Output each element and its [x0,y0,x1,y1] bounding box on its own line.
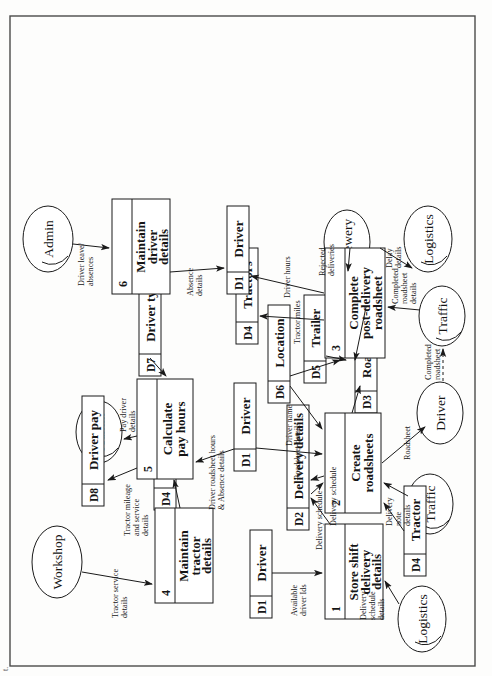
flow-arrow [388,307,420,310]
data-store-d1-driver-b: D1 Driver [234,383,256,471]
data-store-code: D4 [242,326,254,340]
flow-label-line: Driver roadsheet hours [208,435,217,510]
process-label-line: details [156,229,171,265]
flow-label-tractor-service-details: Tractor service details [111,569,129,618]
process-5-calculate-pay-hours: 5 Calculate pay hours [137,379,193,479]
flow-label-line: & Absence details [217,450,226,510]
process-number: 6 [116,281,130,287]
flow-label-line: Available [290,584,299,616]
process-label-line: pay hours [173,401,188,456]
flow-label-absence-details: Absence details [186,267,204,296]
page-margin-caption: al t. [0,665,10,671]
flow-label-pay-driver-details: Pay driver details [119,398,137,432]
flow-label-line: Completed [424,344,433,380]
data-store-code: D2 [293,512,305,526]
process-number: 3 [329,345,343,351]
entity-logistics-2: Logistics [404,206,452,272]
data-store-label: Driver [231,220,246,257]
data-store-code: D4 [410,558,422,572]
entity-admin-2: Admin [23,206,73,272]
flow-label-tractor-miles: Tractor miles [293,300,302,344]
process-label-line: details [369,554,384,590]
flow-label-line: and service [132,499,141,536]
flow-label-driver-roadsheet-hours-absence-details: Driver roadsheet hours & Absence details [208,435,226,510]
entity-label: Logistics [421,214,436,264]
data-store-label: Trailer [308,308,323,347]
flow-label-line: schedule [368,591,377,620]
entity-label: Traffic [435,298,450,335]
data-store-d4-tractor-a: D4 Tractor [404,486,426,576]
flow-label-line: absences [86,257,95,286]
data-store-d6-location: D6 Location [268,305,290,403]
flow-arrow [385,581,399,604]
process-number: 5 [141,466,155,472]
diagram-rotation-wrapper: Logistics Traffic Driver Traffic Logisti… [0,0,492,676]
flow-label-completed-roadsheet: Completed roadsheet [424,344,442,380]
flow-label-line: Tractor service [111,569,120,618]
data-store-code: D1 [256,600,268,614]
entity-workshop: Workshop [32,526,82,598]
flow-label-line: details [128,411,137,432]
flow-label-tractor-mileage-and-service-details: Tractor mileage and service details [123,484,150,536]
entity-label: Logistics [415,594,430,644]
flow-label-line: Pay driver [119,398,128,432]
data-store-label: Driver pay [86,409,101,470]
flow-arrow [311,476,324,480]
flow-label-line: details [394,247,403,268]
entity-label: Driver [433,395,448,431]
data-store-code: D3 [361,395,373,409]
flow-label-line: Rejected [318,247,327,276]
flow-arrow [170,268,224,272]
data-store-label: Driver [238,397,253,434]
caption-line-2: t. [1,665,10,671]
entity-driver-1: Driver [417,382,463,444]
flow-label-available-driver-ids: Available driver Ids [290,584,308,616]
flow-label-line: Tractor mileage [123,484,132,536]
flow-label-delivery-schedule: Delivery schedule [329,466,338,526]
flow-arrow [124,436,137,439]
flow-label-roadsheet: Roadsheet [403,425,412,460]
data-store-d1-driver-a: D1 Driver [250,530,272,618]
flow-label-line: details [409,283,418,304]
flow-label-line: details [377,599,386,620]
flow-arrow [108,468,137,480]
flow-label-line: roadsheet [400,272,409,304]
flow-label-line: details [120,597,129,618]
data-store-code: D5 [310,365,322,379]
data-store-d8-driver-pay: D8 Driver pay [82,396,104,506]
process-6-maintain-driver-details: 6 Maintain driver details [112,199,171,294]
data-store-code: D4 [160,492,172,506]
flow-label-line: Driver leave/ [77,242,86,286]
process-number: 1 [329,606,343,612]
entity-label: Workshop [50,534,65,589]
data-store-d1-driver-c: D1 Driver [227,206,249,294]
flow-label-line: Delay [385,248,394,268]
data-store-code: D1 [240,453,252,467]
flow-label-line: details [141,515,150,536]
flow-label-line: driver Ids [299,584,308,616]
flow-label-rejected-deliveries: Rejected deliveries [318,244,336,276]
data-store-d5-trailer: D5 Trailer [304,295,326,383]
entity-label: Admin [41,220,56,258]
flow-label-driver-leave-absences: Driver leave/ absences [77,242,95,286]
data-store-label: Location [272,318,287,368]
data-store-code: D8 [88,488,100,502]
flow-label-line: Delivery [359,590,368,620]
scanned-page: Logistics Traffic Driver Traffic Logisti… [0,0,492,676]
flow-label-driver-name: Driver name [285,404,294,446]
entity-traffic-2: Traffic [419,286,465,346]
process-4-maintain-tractor-details: 4 Maintain tractor details [155,508,214,603]
flow-label-line: roadsheet [433,348,442,380]
process-label-line: roadsheet [370,275,385,330]
data-store-label: Driver [254,544,269,581]
process-label-line: roadsheets [361,434,376,493]
flow-label-delivery-schedule: Delivery schedule [315,490,324,550]
flow-label-line: Absence [186,267,195,296]
entity-logistics-1: Logistics [398,586,446,652]
process-number: 4 [159,590,173,596]
data-store-code: D1 [233,276,245,290]
flow-label-delay-details: Delay details [385,247,403,268]
flow-label-completed-roadsheet-details: Completed roadsheet details [391,268,418,304]
data-flow-diagram: Logistics Traffic Driver Traffic Logisti… [0,0,492,676]
flow-label-line: details [403,505,412,526]
